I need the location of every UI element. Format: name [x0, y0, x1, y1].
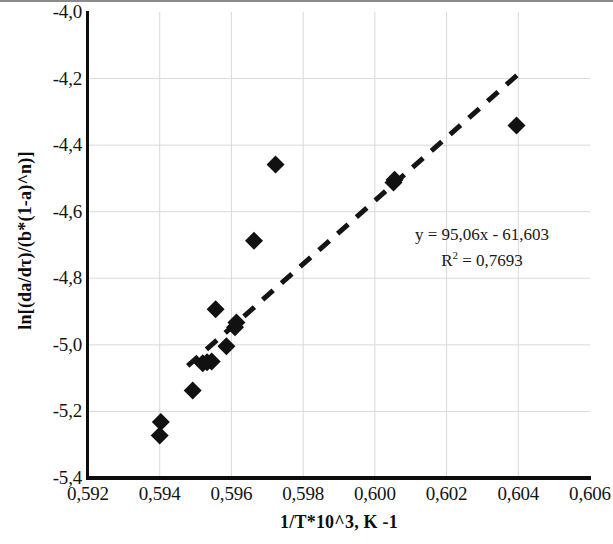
x-axis-title: 1/T*10^3, K -1	[88, 512, 590, 533]
r2-symbol: R	[441, 251, 452, 270]
trendline-equation-annotation: y = 95,06x - 61,603 R2 = 0,7693	[392, 224, 572, 271]
x-tick-label: 0,596	[191, 484, 271, 504]
x-tick-label: 0,594	[120, 484, 200, 504]
y-axis-title: ln[(da/dτ)/(b*(1-a)^n)]	[15, 6, 36, 476]
x-tick-label: 0,598	[263, 484, 343, 504]
x-tick-label: 0,606	[550, 484, 613, 504]
r2-value: = 0,7693	[458, 251, 523, 270]
x-tick-label: 0,602	[407, 484, 487, 504]
trendline-equation-text: y = 95,06x - 61,603	[392, 224, 572, 245]
x-axis-tick-labels: 0,5920,5940,5960,5980,6000,6020,6040,606	[0, 0, 613, 544]
chart-figure: -4,0-4,2-4,4-4,6-4,8-5,0-5,2-5,4 0,5920,…	[0, 0, 613, 544]
x-tick-label: 0,600	[335, 484, 415, 504]
trendline-r2-text: R2 = 0,7693	[392, 245, 572, 271]
x-tick-label: 0,604	[478, 484, 558, 504]
x-tick-label: 0,592	[48, 484, 128, 504]
